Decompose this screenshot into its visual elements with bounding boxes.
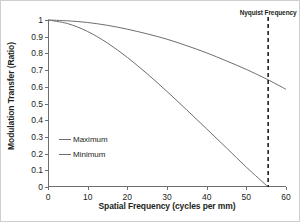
data-curves bbox=[48, 20, 286, 187]
x-tick-mark bbox=[88, 187, 89, 190]
chart-legend: Maximum Minimum bbox=[59, 134, 108, 159]
y-tick-label: 0.8 bbox=[31, 48, 43, 58]
x-tick-mark bbox=[286, 187, 287, 190]
x-tick-mark bbox=[48, 187, 49, 190]
plot-area: 00.10.20.30.40.50.60.70.80.91 0102030405… bbox=[48, 20, 286, 187]
legend-item-maximum: Maximum bbox=[59, 134, 108, 144]
y-tick-label: 0.2 bbox=[31, 149, 43, 159]
y-tick-label: 0.7 bbox=[31, 65, 43, 75]
y-tick-label: 0.3 bbox=[31, 132, 43, 142]
y-tick-label: 0 bbox=[38, 182, 43, 192]
nyquist-frequency-annotation-label: Nyquist Frequency bbox=[240, 9, 297, 16]
y-tick-label: 0.5 bbox=[31, 99, 43, 109]
x-tick-mark bbox=[246, 187, 247, 190]
y-tick-label: 0.1 bbox=[31, 165, 43, 175]
legend-label-maximum: Maximum bbox=[73, 135, 108, 144]
chart-figure: Modulation Transfer (Ratio) 00.10.20.30.… bbox=[0, 0, 300, 222]
y-tick-label: 1 bbox=[38, 15, 43, 25]
x-axis-title: Spatial Frequency (cycles per mm) bbox=[48, 201, 286, 211]
series-line-minimum bbox=[48, 20, 268, 187]
x-tick-mark bbox=[127, 187, 128, 190]
y-axis-title: Modulation Transfer (Ratio) bbox=[3, 3, 19, 189]
series-line-maximum bbox=[48, 20, 286, 89]
y-tick-label: 0.6 bbox=[31, 82, 43, 92]
legend-item-minimum: Minimum bbox=[59, 149, 108, 159]
x-tick-mark bbox=[207, 187, 208, 190]
legend-label-minimum: Minimum bbox=[73, 150, 105, 159]
legend-line-swatch-minimum bbox=[59, 154, 71, 155]
y-tick-label: 0.9 bbox=[31, 32, 43, 42]
legend-line-swatch-maximum bbox=[59, 139, 71, 140]
x-tick-mark bbox=[167, 187, 168, 190]
y-tick-label: 0.4 bbox=[31, 115, 43, 125]
